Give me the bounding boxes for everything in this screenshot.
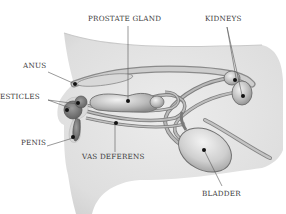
label-vas-deferens: VAS DEFERENS bbox=[82, 153, 145, 160]
anatomy-diagram: PROSTATE GLAND KIDNEYS ANUS ESTICLES PEN… bbox=[0, 0, 286, 214]
anatomy-illustration bbox=[0, 0, 286, 214]
label-bladder: BLADDER bbox=[202, 190, 241, 197]
label-testicles: ESTICLES bbox=[0, 93, 40, 100]
label-anus: ANUS bbox=[23, 62, 46, 69]
label-penis: PENIS bbox=[21, 139, 46, 146]
label-kidneys: KIDNEYS bbox=[205, 15, 242, 22]
label-prostate-gland: PROSTATE GLAND bbox=[88, 15, 161, 22]
body-silhouette bbox=[57, 33, 283, 214]
